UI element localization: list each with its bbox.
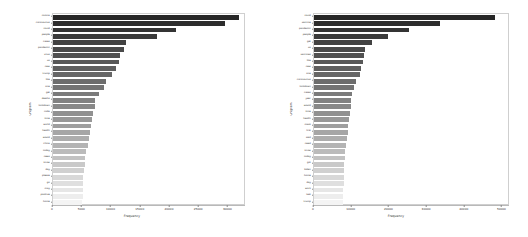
bar (314, 124, 348, 129)
y-tick-label: day (45, 169, 49, 171)
bar (314, 72, 360, 77)
bar (314, 28, 409, 33)
y-tick-label: work (305, 188, 311, 190)
y-tick-mark (312, 86, 313, 87)
y-tick-label: today (43, 149, 50, 151)
y-tick-label: one (306, 73, 310, 75)
bar (314, 130, 348, 135)
y-tick-mark (312, 138, 313, 139)
bar (53, 92, 99, 97)
bar (53, 111, 93, 116)
y-tick-label: cases (304, 92, 311, 94)
x-tick-label: 25000 (194, 208, 203, 211)
y-tick-mark (312, 22, 313, 23)
y-tick-mark (51, 118, 52, 119)
y-tick-label: us (308, 47, 311, 49)
y-tick-mark (312, 35, 313, 36)
bar (314, 188, 343, 193)
bar (314, 117, 349, 122)
bar (314, 66, 361, 71)
y-tick-label: would (43, 137, 50, 139)
bar (314, 85, 354, 90)
y-tick-label: year (305, 98, 310, 100)
y-tick-mark (51, 144, 52, 145)
y-tick-label: trump (43, 73, 50, 75)
bar (53, 168, 84, 173)
y-tick-label: please (42, 175, 50, 177)
y-tick-mark (51, 99, 52, 100)
y-tick-mark (312, 170, 313, 171)
y-tick-label: virus (44, 53, 50, 55)
y-tick-mark (312, 29, 313, 30)
y-tick-mark (312, 195, 313, 196)
figure-canvas: coronacoronaviruscovidpeoplecasespandemi… (0, 0, 528, 237)
y-tick-label: one (45, 85, 49, 87)
bar (314, 168, 344, 173)
bar (314, 181, 344, 186)
bar (53, 98, 95, 103)
y-tick-label: vaccines (300, 53, 310, 55)
y-tick-label: coronavirus (36, 21, 50, 23)
y-tick-label: first (306, 130, 311, 132)
y-tick-label: day (306, 181, 310, 183)
y-tick-label: us (47, 60, 50, 62)
y-tick-label: know (304, 149, 310, 151)
y-tick-mark (312, 157, 313, 158)
y-tick-mark (312, 42, 313, 43)
chart-panel-left: coronacoronaviruscovidpeoplecasespandemi… (0, 0, 264, 237)
y-tick-label: trump (304, 201, 311, 203)
bar (53, 149, 86, 154)
y-tick-label: china (43, 143, 49, 145)
bar (314, 162, 344, 167)
y-tick-label: new (306, 66, 311, 68)
y-tick-label: people (42, 34, 50, 36)
y-tick-label: like (46, 79, 50, 81)
bar (53, 47, 124, 52)
y-tick-mark (312, 80, 313, 81)
y-tick-label: positive (40, 194, 49, 196)
x-tick-label: 15000 (135, 208, 144, 211)
y-tick-label: mask (304, 124, 310, 126)
y-tick-mark (51, 29, 52, 30)
y-tick-mark (312, 48, 313, 49)
x-tick-label: 40000 (459, 208, 468, 211)
y-tick-mark (51, 74, 52, 75)
y-tick-mark (312, 125, 313, 126)
x-tick-label: 30000 (223, 208, 232, 211)
y-tick-label: covid (43, 28, 49, 30)
y-tick-label: said (306, 137, 311, 139)
y-tick-mark (51, 157, 52, 158)
y-tick-label: news (44, 156, 50, 158)
bar (53, 143, 88, 148)
bar (53, 21, 225, 26)
y-tick-mark (51, 138, 52, 139)
plot-area (313, 13, 509, 205)
bar (53, 40, 126, 45)
y-tick-mark (312, 202, 313, 203)
bar (53, 72, 112, 77)
y-tick-mark (312, 61, 313, 62)
bar (53, 28, 176, 33)
x-tick-label: 5000 (78, 208, 85, 211)
y-tick-mark (51, 106, 52, 107)
y-tick-mark (51, 22, 52, 23)
bar (53, 117, 92, 122)
y-tick-mark (312, 189, 313, 190)
x-tick-label: 10000 (346, 208, 355, 211)
y-tick-mark (51, 16, 52, 17)
y-tick-label: time (305, 111, 310, 113)
y-tick-mark (312, 74, 313, 75)
bar (53, 66, 116, 71)
y-tick-mark (312, 150, 313, 151)
y-tick-label: covid (304, 15, 310, 17)
y-tick-label: like (307, 60, 311, 62)
bar (314, 53, 364, 58)
y-tick-label: get (46, 92, 50, 94)
x-axis-title: Frequency (264, 214, 528, 218)
y-axis-title: unigram (28, 13, 32, 205)
y-tick-label: health (42, 130, 50, 132)
x-tick-label: 50000 (497, 208, 506, 211)
y-tick-label: got (307, 162, 311, 164)
y-tick-mark (51, 182, 52, 183)
y-tick-mark (312, 163, 313, 164)
